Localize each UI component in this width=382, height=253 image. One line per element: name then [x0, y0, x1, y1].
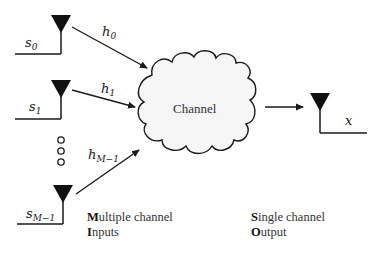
input-antenna-1 — [15, 80, 71, 119]
signal-label-s0: s0 — [25, 36, 37, 52]
output-label-x: x — [345, 114, 352, 127]
signal-label-s1: s1 — [29, 100, 41, 116]
gain-label-h1: h1 — [101, 82, 115, 98]
output-caption: Single channel Output — [251, 210, 325, 240]
channel-label: Channel — [173, 101, 216, 117]
gain-label-hM-1: hM−1 — [88, 148, 119, 164]
ellipsis-dots — [58, 137, 64, 165]
signal-label-sM-1: sM−1 — [26, 207, 55, 223]
input-antenna-0 — [15, 15, 71, 54]
output-antenna — [310, 93, 367, 133]
gain-label-h0: h0 — [102, 25, 116, 41]
inputs-caption: Multiple channel Inputs — [87, 210, 173, 240]
